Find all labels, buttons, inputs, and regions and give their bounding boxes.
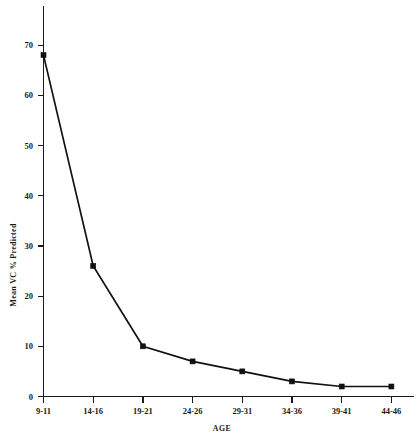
x-tick-label-5: 34-36 <box>282 406 302 416</box>
y-tick-label-30: 30 <box>25 241 34 251</box>
y-tick-label-70: 70 <box>25 40 34 50</box>
data-series-line <box>44 55 392 386</box>
x-tick-label-3: 24-26 <box>183 406 203 416</box>
x-tick-label-0: 9-11 <box>36 406 51 416</box>
y-tick-label-0: 0 <box>29 392 33 402</box>
data-point-3 <box>190 359 195 364</box>
line-chart-plot: 0 10 20 30 40 50 60 70 9-11 14-16 19-21 … <box>0 0 419 438</box>
y-tick-label-40: 40 <box>25 191 34 201</box>
chart-container: 0 10 20 30 40 50 60 70 9-11 14-16 19-21 … <box>0 0 419 438</box>
y-tick-label-60: 60 <box>25 90 34 100</box>
y-tick-marks <box>38 45 44 396</box>
data-point-markers <box>41 53 394 389</box>
x-tick-label-2: 19-21 <box>133 406 153 416</box>
x-tick-label-4: 29-31 <box>232 406 252 416</box>
data-point-0 <box>41 53 46 58</box>
x-tick-label-7: 44-46 <box>381 406 401 416</box>
x-tick-labels: 9-11 14-16 19-21 24-26 29-31 34-36 39-41… <box>36 406 401 416</box>
data-point-6 <box>339 384 344 389</box>
data-point-4 <box>240 369 245 374</box>
data-point-5 <box>290 379 295 384</box>
y-tick-label-50: 50 <box>25 141 34 151</box>
x-tick-marks <box>44 397 392 403</box>
x-tick-label-1: 14-16 <box>83 406 103 416</box>
data-point-2 <box>140 344 145 349</box>
y-tick-label-10: 10 <box>25 341 34 351</box>
x-tick-label-6: 39-41 <box>332 406 352 416</box>
y-axis-title: Mean VC % Predicted <box>9 223 18 307</box>
data-point-7 <box>389 384 394 389</box>
data-point-1 <box>91 264 96 269</box>
y-tick-label-20: 20 <box>25 291 34 301</box>
y-tick-labels: 0 10 20 30 40 50 60 70 <box>25 40 34 401</box>
x-axis-title: AGE <box>213 424 231 433</box>
